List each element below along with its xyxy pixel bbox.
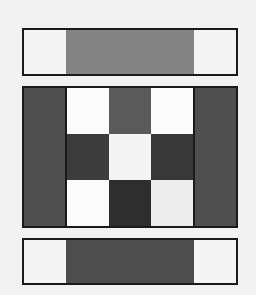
bottom-bar-cell-right <box>194 240 236 283</box>
grid-separator-4 <box>193 88 195 226</box>
grid-cell-r1-c2 <box>109 134 151 180</box>
top-bar-cell-left <box>24 30 66 74</box>
grid-cell-r0-c1 <box>66 88 108 134</box>
grid-cell-r2-c0 <box>24 180 66 226</box>
top-bar-cell-center <box>66 30 193 74</box>
grid-cell-r1-c3 <box>151 134 193 180</box>
grid-cell-r0-c2 <box>109 88 151 134</box>
main-grid-inner <box>24 88 236 226</box>
grid-cell-r0-c4 <box>194 88 236 134</box>
main-grid-panel <box>22 86 238 228</box>
top-bar-panel <box>22 28 238 76</box>
bottom-bar-cell-left <box>24 240 66 283</box>
grid-cell-r2-c2 <box>109 180 151 226</box>
bottom-bar-cell-center <box>66 240 193 283</box>
top-bar-cell-right <box>194 30 236 74</box>
bottom-bar-panel <box>22 238 238 285</box>
grid-cell-r1-c1 <box>66 134 108 180</box>
grid-cell-r0-c0 <box>24 88 66 134</box>
grid-cell-r2-c4 <box>194 180 236 226</box>
grid-cell-r0-c3 <box>151 88 193 134</box>
grid-separator-1 <box>65 88 67 226</box>
grid-cell-r2-c3 <box>151 180 193 226</box>
grid-cell-r1-c4 <box>194 134 236 180</box>
grid-cell-r2-c1 <box>66 180 108 226</box>
grid-cell-r1-c0 <box>24 134 66 180</box>
figure-canvas <box>0 0 256 295</box>
